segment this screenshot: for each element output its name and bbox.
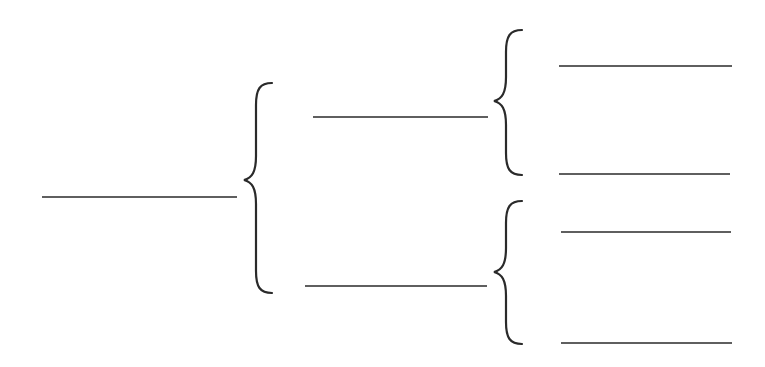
bracket-diagram [0, 0, 765, 367]
brace-level2-upper-curly-brace [494, 30, 522, 175]
brace-level2-lower-curly-brace [494, 201, 522, 344]
brace-level1-curly-brace [244, 83, 272, 293]
